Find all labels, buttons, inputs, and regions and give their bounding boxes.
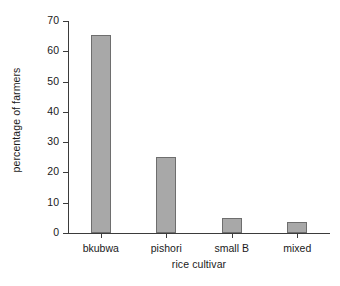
y-axis-title: percentage of farmers (6, 0, 26, 240)
x-axis-category-label: pishori (135, 242, 197, 255)
y-axis-tick: 0 (63, 233, 68, 234)
bar (222, 218, 242, 233)
y-axis-tick: 70 (63, 21, 68, 22)
x-axis-title-label: rice cultivar (172, 258, 226, 270)
y-axis-tick: 60 (63, 51, 68, 52)
x-axis-tick (232, 233, 233, 238)
x-axis-tick (101, 233, 102, 238)
y-axis-tick-label: 50 (47, 75, 59, 88)
x-axis-title: rice cultivar (68, 258, 330, 270)
y-axis-tick: 40 (63, 112, 68, 113)
y-axis-tick-label: 20 (47, 165, 59, 178)
y-axis-tick-label: 40 (47, 105, 59, 118)
y-axis-tick: 10 (63, 203, 68, 204)
x-axis-category-label: small B (201, 242, 263, 255)
bar (287, 222, 307, 233)
bar-chart-figure: percentage of farmers 010203040506070 bk… (0, 0, 340, 286)
y-axis-tick-label: 10 (47, 196, 59, 209)
y-axis-tick-label: 70 (47, 14, 59, 27)
x-axis-category-label: mixed (266, 242, 328, 255)
y-axis-tick-label: 0 (53, 226, 59, 239)
y-axis-title-label: percentage of farmers (10, 68, 22, 173)
bar (156, 157, 176, 233)
y-axis-line (68, 21, 69, 234)
y-axis-tick: 20 (63, 172, 68, 173)
y-axis-tick: 50 (63, 82, 68, 83)
y-axis-tick-label: 60 (47, 44, 59, 57)
y-axis-tick: 30 (63, 142, 68, 143)
bar (91, 35, 111, 233)
x-axis-tick (297, 233, 298, 238)
x-axis-line (68, 233, 330, 234)
x-axis-tick (166, 233, 167, 238)
plot-area: 010203040506070 bkubwapishorismall Bmixe… (68, 21, 330, 233)
x-axis-category-label: bkubwa (70, 242, 132, 255)
y-axis-tick-label: 30 (47, 135, 59, 148)
